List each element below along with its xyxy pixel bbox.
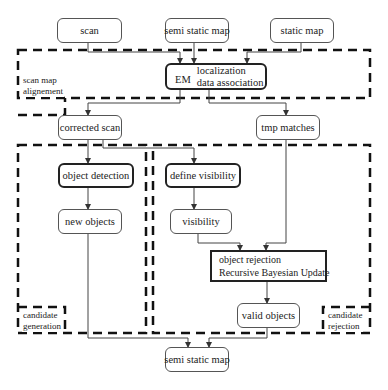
candidate-rejection-label: candidate rejection [327, 310, 363, 332]
define-visibility-node: define visibility [165, 163, 241, 188]
corrected-scan-label: corrected scan [60, 122, 120, 133]
flow-diagram: scan semi static map static map EM local… [0, 0, 388, 390]
define-visibility-label: define visibility [170, 170, 236, 181]
region-label-line: generation [23, 321, 61, 332]
valid-objects-label: valid objects [242, 310, 295, 321]
data-association-label: data association [197, 77, 264, 89]
em-label: EM [175, 74, 191, 85]
static-map-node: static map [270, 18, 334, 43]
scan-map-alignment-label: scan map alignement [22, 75, 64, 97]
region-label-line: rejection [328, 321, 362, 332]
corrected-scan-node: corrected scan [58, 115, 122, 140]
object-detection-node: object detection [58, 163, 134, 188]
semi-static-map-input-label: semi static map [164, 25, 229, 36]
em-details: localization data association [197, 65, 264, 89]
object-rejection-node: object rejection Recursive Bayesian Upda… [210, 250, 327, 282]
static-map-label: static map [281, 25, 324, 36]
scan-label: scan [80, 25, 99, 36]
region-label-line: candidate [328, 310, 362, 321]
visibility-label: visibility [182, 216, 219, 227]
scan-node: scan [57, 18, 122, 43]
object-detection-label: object detection [63, 170, 130, 181]
region-label-line: candidate [23, 310, 61, 321]
semi-static-map-output-label: semi static map [164, 354, 229, 365]
localization-label: localization [197, 65, 264, 77]
object-rejection-label: object rejection [219, 253, 281, 266]
new-objects-label: new objects [65, 216, 115, 227]
tmp-matches-node: tmp matches [256, 115, 320, 140]
tmp-matches-label: tmp matches [261, 122, 314, 133]
candidate-generation-label: candidate generation [22, 310, 62, 332]
visibility-node: visibility [170, 209, 232, 234]
recursive-bayesian-update-label: Recursive Bayesian Update [219, 266, 330, 279]
em-node: EM localization data association [165, 63, 267, 90]
semi-static-map-output-node: semi static map [165, 347, 229, 372]
region-label-line: scan map [23, 75, 63, 86]
valid-objects-node: valid objects [237, 303, 300, 328]
region-label-line: alignement [23, 86, 63, 97]
semi-static-map-input-node: semi static map [165, 18, 229, 43]
new-objects-node: new objects [58, 209, 122, 234]
